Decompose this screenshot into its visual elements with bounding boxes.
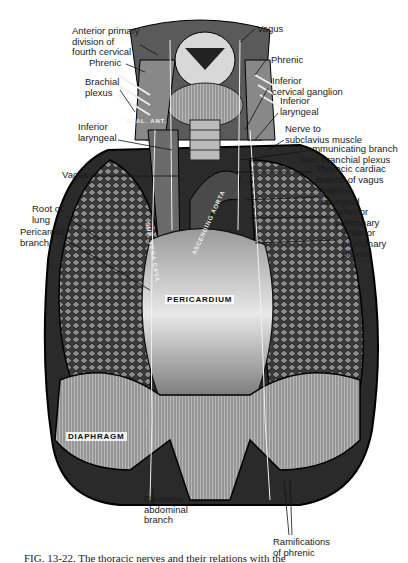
organ-label-scalenus-anterior: SCAL. ANT. [124,118,169,124]
label-brachial-plexus: Brachial plexus [85,77,119,98]
label-phrenic-left: Phrenic [89,58,121,69]
label-nerve-to-subclavius: Nerve to subclavius muscle [285,124,362,145]
organ-label-diaphragm: DIAPHRAGM [66,432,127,441]
label-phrenic-right: Phrenic [271,55,303,66]
label-phrenico-abdominal-branch: Phrenico- abdominal branch [144,494,188,526]
neck-structures [118,20,294,160]
label-vagus-left: Vagus [62,170,88,181]
organ-label-pericardium: PERICARDIUM [165,295,234,304]
label-pericardial-branch: Pericardial branch [20,227,65,248]
label-anterior-primary-division: Anterior primary division of fourth cerv… [72,26,140,58]
thorax-illustration [0,0,408,563]
label-inferior-laryngeal-left: Inferior laryngeal [78,122,117,143]
figure-caption: FIG. 13-22. The thoracic nerves and thei… [24,552,286,563]
label-root-of-lung: Root of lung [32,204,63,225]
label-communicating-branch: Communicating branch from branchial plex… [300,144,398,165]
label-inferior-cervical-ganglion: Inferior cervical ganglion [272,76,343,97]
label-inferior-laryngeal-right: Inferior laryngeal [280,96,319,117]
label-vagus-right: Vagus [257,24,283,35]
pericardium [142,229,273,400]
label-inferior-laryngeal-lower: Inferior laryngeal [321,186,360,207]
label-anterior-pulmonary-plexus: Anterior pulmonary plexus [342,228,386,260]
label-anterior-pulmonary: Anterior pulmonary [335,207,379,228]
label-thoracic-cardiac-branch: Thoracic cardiac branch of vagus [316,164,386,185]
